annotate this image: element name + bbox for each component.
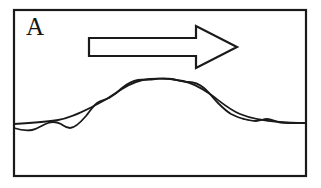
- figure-canvas: [0, 0, 321, 188]
- figure-background: [0, 0, 321, 188]
- panel-label-a: A: [26, 14, 44, 39]
- figure-panel: A: [0, 0, 321, 188]
